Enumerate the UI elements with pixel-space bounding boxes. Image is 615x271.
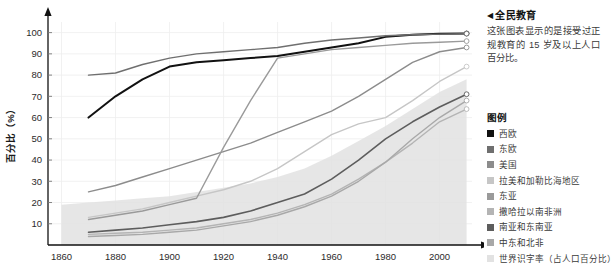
x-axis-tick-label: 1880 (105, 251, 126, 262)
legend-label: 世界识字率（占人口百分比） (499, 254, 615, 264)
x-axis-tick-label: 1860 (51, 251, 72, 262)
y-axis-tick-label: 100 (26, 27, 42, 38)
legend-label: 中东和北非 (499, 238, 544, 248)
side-panel: ◀全民教育 这张图表显示的是接受过正规教育的 15 岁及以上人口百分比。 图例 … (487, 0, 602, 271)
panel-description: 这张图表显示的是接受过正规教育的 15 岁及以上人口百分比。 (487, 25, 600, 66)
legend-item[interactable]: 中东和北非 (487, 235, 602, 251)
legend-label: 东亚 (499, 191, 517, 201)
x-axis-tick-label: 1960 (321, 251, 342, 262)
legend-swatch-icon (487, 130, 494, 137)
x-axis-tick-label: 1920 (213, 251, 234, 262)
x-axis-tick-label: 1940 (267, 251, 288, 262)
x-axis-tick-label: 1980 (375, 251, 396, 262)
legend-item[interactable]: 东亚 (487, 188, 602, 204)
y-axis-tick-label: 80 (31, 69, 42, 80)
legend-item[interactable]: 南亚和东南亚 (487, 220, 602, 236)
legend-label: 拉美和加勒比海地区 (499, 176, 580, 186)
legend-label: 美国 (499, 160, 517, 170)
legend-label: 南亚和东南亚 (499, 222, 553, 232)
y-axis-tick-label: 10 (31, 218, 42, 229)
y-axis-tick-label: 60 (31, 112, 42, 123)
legend-swatch-icon (487, 208, 494, 215)
y-axis-title: 百分比（%） (5, 104, 16, 162)
panel-title: ◀全民教育 (487, 10, 602, 23)
legend-swatch-icon (487, 255, 494, 262)
legend-title: 图例 (487, 110, 507, 124)
legend-item[interactable]: 西欧 (487, 126, 602, 142)
y-axis-tick-label: 50 (31, 133, 42, 144)
x-axis-tick-label: 1900 (159, 251, 180, 262)
legend-item[interactable]: 美国 (487, 157, 602, 173)
legend-label: 东欧 (499, 144, 517, 154)
y-axis-tick-label: 90 (31, 48, 42, 59)
triangle-left-icon: ◀ (487, 11, 493, 20)
education-line-chart: 1020304050607080901001860188019001920194… (0, 0, 484, 271)
legend-label: 撒哈拉以南非洲 (499, 207, 562, 217)
chart-canvas: 1020304050607080901001860188019001920194… (0, 0, 484, 271)
legend-swatch-icon (487, 193, 494, 200)
legend-swatch-icon (487, 161, 494, 168)
y-axis-tick-label: 70 (31, 91, 42, 102)
y-axis-tick-label: 20 (31, 197, 42, 208)
legend-label: 西欧 (499, 129, 517, 139)
legend-item[interactable]: 拉美和加勒比海地区 (487, 173, 602, 189)
legend-item[interactable]: 世界识字率（占人口百分比） (487, 251, 602, 267)
legend-item[interactable]: 撒哈拉以南非洲 (487, 204, 602, 220)
legend-item[interactable]: 东欧 (487, 142, 602, 158)
legend-list: 西欧东欧美国拉美和加勒比海地区东亚撒哈拉以南非洲南亚和东南亚中东和北非世界识字率… (487, 126, 602, 266)
legend-swatch-icon (487, 224, 494, 231)
y-axis-tick-label: 30 (31, 176, 42, 187)
legend-swatch-icon (487, 146, 494, 153)
legend-swatch-icon (487, 239, 494, 246)
legend-swatch-icon (487, 177, 494, 184)
y-axis-tick-label: 40 (31, 154, 42, 165)
panel-title-text: 全民教育 (495, 10, 536, 21)
x-axis-tick-label: 2000 (429, 251, 450, 262)
